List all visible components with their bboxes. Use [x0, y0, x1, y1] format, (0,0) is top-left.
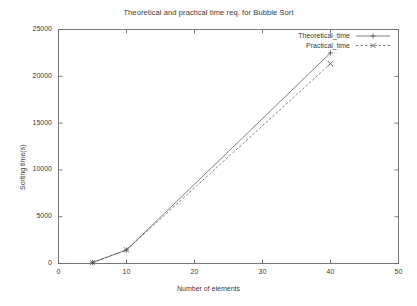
plot-area	[0, 0, 417, 306]
chart-container: Theoretical and practical time req. for …	[0, 0, 417, 306]
